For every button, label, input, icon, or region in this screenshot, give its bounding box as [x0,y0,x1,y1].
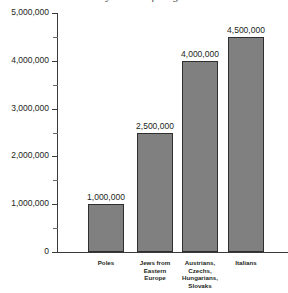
category-label-line: Slovaks [174,282,226,290]
category-label-line: Czechs, [174,267,226,275]
chart-title: by Nation of Origin [0,0,288,2]
category-label-line: Hungarians, [174,274,226,282]
y-axis-tick-label: 2,000,000 [11,151,49,160]
bar-value-label: 2,500,000 [121,121,189,131]
y-axis-tick-label: 0 [44,247,49,256]
y-axis-tick-major [52,156,58,157]
x-axis-category-label: Italians [220,259,272,267]
bar-chart: by Nation of Origin 01,000,0002,000,0003… [0,0,288,293]
bar[interactable] [88,204,124,252]
bar[interactable] [182,61,218,252]
bar-value-label: 4,000,000 [166,49,234,59]
y-axis-tick-major [52,204,58,205]
y-axis-tick-minor [53,180,58,181]
y-axis-tick-major [52,61,58,62]
category-label-line: Austrians, [174,259,226,267]
y-axis-tick-label: 4,000,000 [11,56,49,65]
bar-value-label: 4,500,000 [212,25,280,35]
y-axis-tick-label: 1,000,000 [11,199,49,208]
category-label-line: Poles [80,259,132,267]
bar[interactable] [228,37,264,252]
bar[interactable] [137,133,173,253]
y-axis-tick-major [52,109,58,110]
y-axis-tick-major [52,13,58,14]
category-label-line: Italians [220,259,272,267]
bar-value-label: 1,000,000 [72,192,140,202]
y-axis-tick-minor [53,133,58,134]
y-axis-tick-major [52,252,58,253]
x-axis-category-label: Austrians,Czechs,Hungarians,Slovaks [174,259,226,289]
y-axis-tick-minor [53,228,58,229]
y-axis-tick-label: 5,000,000 [11,8,49,17]
y-axis-tick-minor [53,37,58,38]
y-axis-tick-minor [53,85,58,86]
y-axis-tick-label: 3,000,000 [11,104,49,113]
x-axis-line [57,252,288,253]
x-axis-category-label: Poles [80,259,132,267]
